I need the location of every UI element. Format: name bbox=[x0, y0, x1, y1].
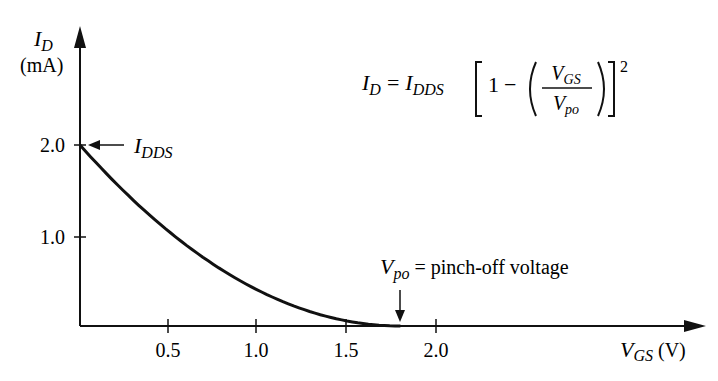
x-axis-arrow-icon bbox=[684, 320, 706, 332]
x-tick-label-20: 2.0 bbox=[424, 339, 449, 361]
idds-arrow-head-icon bbox=[88, 140, 100, 150]
chart: ID (mA) 2.0 1.0 0.5 1.0 1.5 2.0 VGS (V) … bbox=[0, 0, 718, 381]
svg-text:ID=IDDS: ID=IDDS bbox=[361, 70, 444, 98]
svg-text:−: − bbox=[504, 72, 516, 97]
equation: ID=IDDS 1 − VGS Vpo 2 bbox=[361, 58, 628, 117]
svg-text:2: 2 bbox=[620, 58, 628, 75]
transfer-curve bbox=[80, 145, 400, 326]
vpo-label: Vpo = pinch-off voltage bbox=[380, 254, 569, 283]
svg-text:1: 1 bbox=[488, 72, 499, 97]
x-tick-label-15: 1.5 bbox=[334, 339, 359, 361]
idds-label: IDDS bbox=[133, 133, 172, 161]
vpo-arrow-head-icon bbox=[395, 310, 405, 322]
svg-text:Vpo: Vpo bbox=[553, 92, 579, 117]
x-axis-label: VGS (V) bbox=[620, 337, 686, 364]
y-tick-label-2: 2.0 bbox=[40, 134, 65, 156]
y-axis-arrow-icon bbox=[74, 26, 86, 48]
y-axis-label: ID bbox=[33, 26, 53, 54]
svg-text:VGS: VGS bbox=[551, 62, 580, 87]
y-tick-label-1: 1.0 bbox=[40, 226, 65, 248]
y-axis-unit: (mA) bbox=[20, 54, 63, 77]
x-tick-label-05: 0.5 bbox=[156, 339, 181, 361]
x-tick-label-10: 1.0 bbox=[244, 339, 269, 361]
